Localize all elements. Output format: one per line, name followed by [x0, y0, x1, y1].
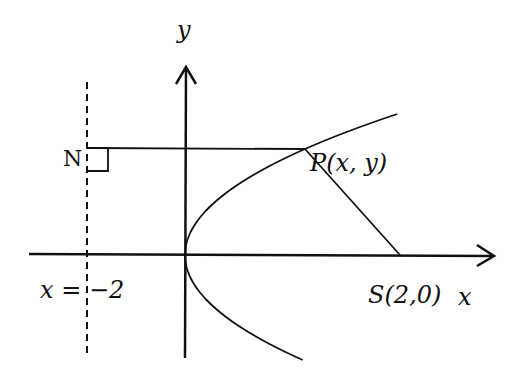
y-axis: [185, 68, 186, 358]
directrix-label: x = −2: [40, 276, 124, 304]
point-N-label: N: [63, 146, 82, 171]
parabola-diagram: y x N P(x, y) S(2,0) x = −2: [0, 0, 529, 385]
x-axis-label: x: [458, 283, 472, 311]
focus-S-label: S(2,0): [368, 281, 441, 309]
point-P-label: P(x, y): [309, 149, 387, 177]
y-axis-label: y: [176, 16, 191, 44]
x-axis: [29, 254, 492, 256]
segment-NP: [87, 148, 305, 149]
right-angle-marker: [87, 148, 108, 171]
